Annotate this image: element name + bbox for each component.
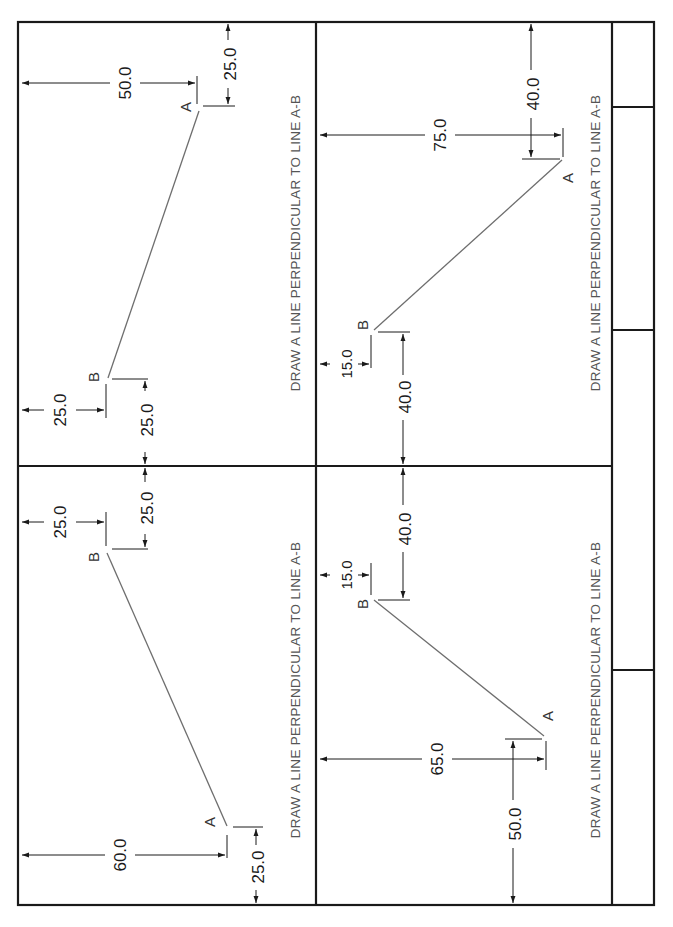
dim-a-horizontal: 25.0 xyxy=(221,47,240,80)
drawing-sheet: 50.0 25.0 A 25.0 25.0 B DRAW A LINE PERP… xyxy=(0,0,673,927)
dim-a-horizontal: 50.0 xyxy=(506,807,525,840)
instruction: DRAW A LINE PERPENDICULAR TO LINE A-B xyxy=(588,95,603,392)
dim-a-horizontal: 40.0 xyxy=(524,77,543,110)
label-a: A xyxy=(177,102,194,112)
dim-b-vertical: 25.0 xyxy=(51,393,70,426)
problem-top-left: 50.0 25.0 A 25.0 25.0 B DRAW A LINE PERP… xyxy=(22,24,303,464)
label-a: A xyxy=(559,173,576,183)
line-a-b xyxy=(108,111,199,378)
dim-a-vertical: 65.0 xyxy=(428,742,447,775)
instruction: DRAW A LINE PERPENDICULAR TO LINE A-B xyxy=(588,542,603,839)
line-a-b xyxy=(107,553,227,826)
sheet-border xyxy=(18,22,654,905)
dim-b-vertical: 25.0 xyxy=(51,505,70,538)
problem-top-right: 75.0 40.0 A 15.0 40.0 B DRAW A LINE PERP… xyxy=(320,24,603,464)
instruction: DRAW A LINE PERPENDICULAR TO LINE A-B xyxy=(288,95,303,392)
dim-a-vertical: 60.0 xyxy=(111,838,130,871)
instruction: DRAW A LINE PERPENDICULAR TO LINE A-B xyxy=(288,542,303,839)
problem-bottom-left: 25.0 25.0 B 60.0 25.0 A DRAW A LINE PERP… xyxy=(22,468,303,903)
dim-b-vertical: 15.0 xyxy=(338,560,355,589)
label-a: A xyxy=(539,711,556,721)
label-b: B xyxy=(85,552,102,562)
dim-a-vertical: 50.0 xyxy=(116,66,135,99)
line-a-b xyxy=(374,160,562,330)
dim-b-vertical: 15.0 xyxy=(338,349,355,378)
dim-a-horizontal: 25.0 xyxy=(249,850,268,883)
label-a: A xyxy=(201,817,218,827)
dim-b-horizontal: 40.0 xyxy=(396,380,415,413)
dim-b-horizontal: 25.0 xyxy=(138,403,157,436)
dim-a-vertical: 75.0 xyxy=(431,118,450,151)
label-b: B xyxy=(85,372,102,382)
dim-b-horizontal: 40.0 xyxy=(396,512,415,545)
label-b: B xyxy=(354,599,371,609)
dim-b-horizontal: 25.0 xyxy=(138,491,157,524)
problem-bottom-right: 15.0 40.0 B 65.0 50.0 A DRAW A LINE PERP… xyxy=(320,468,603,903)
title-block xyxy=(612,107,654,670)
label-b: B xyxy=(354,320,371,330)
line-a-b xyxy=(374,600,544,736)
